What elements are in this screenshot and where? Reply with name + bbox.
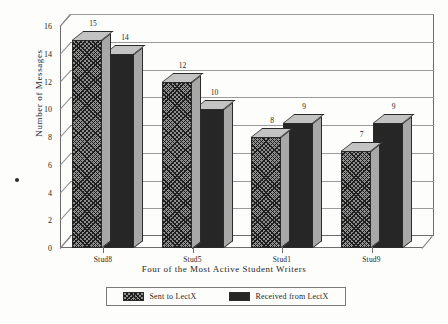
bar-value-label: 12 xyxy=(166,61,200,70)
bar-side-face xyxy=(313,116,322,248)
bar-side-face xyxy=(134,47,143,248)
y-tick-label: 4 xyxy=(22,189,52,198)
legend-entry: Received from LectX xyxy=(229,292,328,301)
x-tick-mark xyxy=(103,248,104,253)
legend-entry: Sent to LectX xyxy=(123,292,196,301)
gridline xyxy=(70,42,434,43)
x-tick-label: Stud5 xyxy=(163,255,223,264)
bar-value-label: 9 xyxy=(377,102,411,111)
x-tick-label: Stud8 xyxy=(73,255,133,264)
x-tick-label: Stud1 xyxy=(252,255,312,264)
x-tick-label: Stud9 xyxy=(342,255,402,264)
bar-side-face xyxy=(371,144,380,248)
x-tick-mark xyxy=(372,248,373,253)
bar xyxy=(162,82,192,249)
legend-swatch xyxy=(123,292,144,301)
bar-side-face xyxy=(102,33,111,248)
bar-value-label: 14 xyxy=(108,33,142,42)
bar-value-label: 15 xyxy=(76,19,110,28)
bar-value-label: 7 xyxy=(345,130,379,139)
y-tick-label: 2 xyxy=(22,216,52,225)
legend-label: Received from LectX xyxy=(255,292,328,301)
bar-value-label: 10 xyxy=(198,88,232,97)
legend-label: Sent to LectX xyxy=(149,292,196,301)
bar-front-face xyxy=(251,137,281,248)
gridline xyxy=(70,14,434,15)
bar xyxy=(72,40,102,248)
bar-side-face xyxy=(224,102,233,248)
x-axis-title: Four of the Most Active Student Writers xyxy=(0,264,448,274)
y-tick-label: 6 xyxy=(22,161,52,170)
bar-front-face xyxy=(72,40,102,248)
bullet-marker xyxy=(15,178,19,182)
bar xyxy=(341,151,371,248)
floor-right-diagonal xyxy=(422,236,433,249)
bar xyxy=(251,137,281,248)
y-tick-label: 16 xyxy=(22,22,52,31)
bar-front-face xyxy=(162,82,192,249)
chart-page: Number of Messages 0246810121416 1514121… xyxy=(0,0,448,324)
y-tick-label: 10 xyxy=(22,105,52,114)
y-tick-label: 0 xyxy=(22,244,52,253)
bar-value-label: 9 xyxy=(287,102,321,111)
chart-legend: Sent to LectXReceived from LectX xyxy=(106,287,346,306)
bar-side-face xyxy=(403,116,412,248)
y-axis-title: Number of Messages xyxy=(34,23,44,163)
y-tick-label: 12 xyxy=(22,78,52,87)
bar-side-face xyxy=(192,74,201,248)
bar-front-face xyxy=(341,151,371,248)
bar-value-label: 8 xyxy=(255,116,289,125)
bar-side-face xyxy=(281,130,290,248)
legend-swatch xyxy=(229,292,250,301)
y-tick-label: 8 xyxy=(22,133,52,142)
y-tick-label: 14 xyxy=(22,50,52,59)
plot-box: 0246810121416 151412108979 Stud8Stud5Stu… xyxy=(60,14,434,248)
plot-area: 0246810121416 151412108979 Stud8Stud5Stu… xyxy=(60,14,434,248)
x-tick-mark xyxy=(282,248,283,253)
x-tick-mark xyxy=(193,248,194,253)
